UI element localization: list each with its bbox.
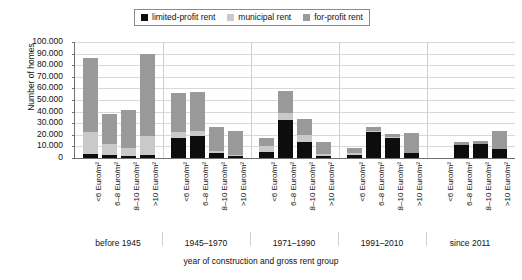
- bar-stack[interactable]: [209, 127, 224, 158]
- bar-segment: [140, 155, 155, 158]
- x-axis-group-label: before 1945: [74, 238, 162, 248]
- x-axis-group-label: 1991–2010: [338, 238, 426, 248]
- group-divider: [162, 232, 163, 246]
- bar-stack[interactable]: [492, 131, 507, 158]
- x-axis-group-label: 1971–1990: [250, 238, 338, 248]
- bar-stack[interactable]: [121, 110, 136, 158]
- bar-segment: [366, 132, 381, 158]
- bar-segment: [171, 138, 186, 158]
- y-axis-tick-label: 20.000: [0, 130, 63, 139]
- y-axis-tick-mark: [72, 54, 75, 55]
- x-axis-category-label: <6 Euro/m²: [270, 162, 279, 202]
- chart-legend: limited-profit rent municipal rent for-p…: [134, 9, 370, 26]
- bar-segment: [316, 142, 331, 154]
- x-axis-category-label: 6–8 Euro/m²: [377, 162, 386, 206]
- plot-area: 100.00090.00080.00070.00060.00050.00040.…: [74, 42, 515, 159]
- x-axis-category-label: <6 Euro/m²: [358, 162, 367, 202]
- legend-item-municipal-rent: municipal rent: [227, 12, 291, 22]
- bar-stack[interactable]: [140, 54, 155, 158]
- legend-item-for-profit-rent: for-profit rent: [303, 12, 363, 22]
- bar-stack[interactable]: [366, 127, 381, 158]
- bar-segment: [385, 138, 400, 158]
- x-axis-category-label: 8–10 Euro/m²: [220, 162, 229, 210]
- group-separator: [163, 42, 164, 158]
- bar-stack[interactable]: [278, 91, 293, 158]
- bar-stack[interactable]: [316, 142, 331, 158]
- bar-stack[interactable]: [347, 148, 362, 158]
- x-axis-category-label: 6–8 Euro/m²: [465, 162, 474, 206]
- x-axis-group-label: since 2011: [426, 238, 514, 248]
- x-axis-category-label: <6 Euro/m²: [94, 162, 103, 202]
- x-axis-category-label: 8–10 Euro/m²: [308, 162, 317, 210]
- bar-segment: [228, 156, 243, 158]
- legend-label: limited-profit rent: [152, 12, 215, 22]
- legend-item-limited-profit-rent: limited-profit rent: [141, 12, 215, 22]
- y-axis-tick-mark: [72, 112, 75, 113]
- y-axis-tick-label: 100.000: [0, 37, 63, 46]
- bar-stack[interactable]: [171, 93, 186, 158]
- bar-segment: [316, 156, 331, 158]
- bar-segment: [316, 154, 331, 156]
- bar-segment: [297, 142, 312, 158]
- bar-stack[interactable]: [83, 58, 98, 158]
- x-axis-group-label: 1945–1970: [162, 238, 250, 248]
- bar-segment: [259, 152, 274, 158]
- bar-segment: [140, 54, 155, 136]
- y-axis-tick-label: 80.000: [0, 60, 63, 69]
- bar-stack[interactable]: [102, 114, 117, 158]
- bar-segment: [259, 146, 274, 152]
- y-axis-tick-mark: [72, 100, 75, 101]
- bar-segment: [121, 148, 136, 156]
- bar-segment: [278, 113, 293, 120]
- y-axis-tick-mark: [72, 135, 75, 136]
- bar-segment: [83, 154, 98, 158]
- bar-segment: [404, 153, 419, 158]
- x-axis-category-label: 8–10 Euro/m²: [396, 162, 405, 210]
- y-axis-tick-mark: [72, 158, 75, 159]
- bar-segment: [385, 134, 400, 137]
- bar-segment: [121, 110, 136, 148]
- legend-label: municipal rent: [238, 12, 291, 22]
- bar-segment: [454, 145, 469, 158]
- bar-stack[interactable]: [404, 132, 419, 158]
- bar-stack[interactable]: [473, 141, 488, 158]
- bar-segment: [297, 135, 312, 142]
- bar-segment: [171, 93, 186, 132]
- bar-segment: [209, 127, 224, 151]
- bar-segment: [492, 149, 507, 158]
- x-axis-category-label: >10 Euro/m²: [503, 162, 512, 206]
- y-axis-tick-mark: [72, 123, 75, 124]
- x-axis-category-label: 6–8 Euro/m²: [289, 162, 298, 206]
- gridline: [75, 42, 515, 43]
- bar-segment: [385, 137, 400, 138]
- bar-segment: [190, 136, 205, 158]
- bar-segment: [259, 138, 274, 146]
- bar-stack[interactable]: [297, 119, 312, 158]
- bar-segment: [102, 155, 117, 158]
- group-divider: [338, 232, 339, 246]
- bar-stack[interactable]: [454, 142, 469, 158]
- y-axis-tick-label: 30.000: [0, 118, 63, 127]
- bar-stack[interactable]: [190, 92, 205, 158]
- group-divider: [250, 232, 251, 246]
- bar-segment: [347, 148, 362, 154]
- bar-segment: [140, 136, 155, 155]
- x-axis-category-label: >10 Euro/m²: [327, 162, 336, 206]
- bar-segment: [209, 153, 224, 158]
- bar-stack[interactable]: [228, 131, 243, 158]
- bar-segment: [83, 132, 98, 154]
- bar-stack[interactable]: [259, 138, 274, 158]
- bar-segment: [228, 131, 243, 154]
- legend-label: for-profit rent: [314, 12, 363, 22]
- x-axis-category-label: <6 Euro/m²: [446, 162, 455, 202]
- bar-segment: [190, 92, 205, 131]
- y-axis-tick-label: 60.000: [0, 83, 63, 92]
- legend-swatch-icon: [141, 14, 148, 21]
- x-axis-category-label: >10 Euro/m²: [415, 162, 424, 206]
- x-axis-category-label: 8–10 Euro/m²: [132, 162, 141, 210]
- y-axis-tick-label: 40.000: [0, 107, 63, 116]
- bar-segment: [209, 151, 224, 153]
- bar-stack[interactable]: [385, 134, 400, 158]
- bar-segment: [278, 91, 293, 113]
- y-axis-tick-mark: [72, 65, 75, 66]
